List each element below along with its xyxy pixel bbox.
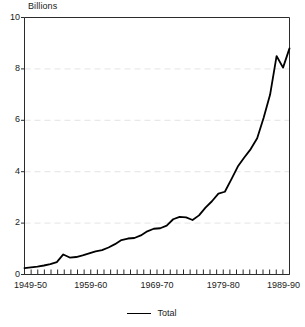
x-axis-tick-label: 1989-90 bbox=[254, 280, 305, 290]
x-axis-tick-label: 1969-70 bbox=[127, 280, 187, 290]
legend-line-swatch bbox=[127, 313, 151, 314]
y-axis-tick-label: 0 bbox=[0, 269, 20, 279]
chart-legend: Total bbox=[0, 308, 304, 318]
series-total bbox=[25, 48, 290, 268]
legend-label-total: Total bbox=[157, 308, 176, 318]
y-axis-tick-label: 6 bbox=[0, 114, 20, 124]
x-axis-tick-label: 1979-80 bbox=[193, 280, 253, 290]
x-axis-ticks bbox=[25, 270, 290, 275]
gridlines bbox=[25, 18, 290, 224]
x-axis-tick-label: 1959-60 bbox=[61, 280, 121, 290]
y-axis-tick-label: 10 bbox=[0, 12, 20, 22]
chart-container: Billions 0246810 1949-501959-601969-7019… bbox=[0, 0, 304, 327]
y-axis-tick-label: 8 bbox=[0, 63, 20, 73]
chart-svg bbox=[0, 0, 304, 327]
y-axis-tick-label: 4 bbox=[0, 166, 20, 176]
x-axis-tick-label: 1949-50 bbox=[1, 280, 61, 290]
y-axis-tick-label: 2 bbox=[0, 217, 20, 227]
y-axis-ticks bbox=[21, 18, 25, 275]
plot-frame bbox=[25, 18, 290, 275]
